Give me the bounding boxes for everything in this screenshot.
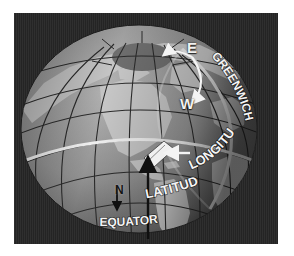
globe-diagram-figure: GREENWICH LONGITUDE LATITUDE EQUATOR E W…	[0, 0, 294, 256]
label-west: W	[180, 95, 195, 112]
label-east: E	[187, 39, 197, 56]
globe-surface	[18, 25, 260, 243]
diagram-panel: GREENWICH LONGITUDE LATITUDE EQUATOR E W…	[14, 13, 278, 244]
label-north: N	[115, 183, 124, 197]
globe-shading	[21, 25, 257, 233]
globe-illustration	[14, 13, 278, 244]
